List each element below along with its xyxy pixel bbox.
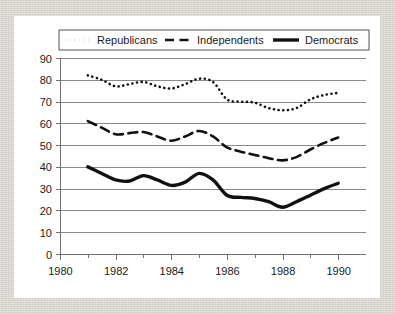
y-tick-label: 70	[40, 96, 52, 108]
y-tick-label: 0	[46, 249, 52, 261]
x-tick-label: 1982	[104, 265, 128, 277]
series-line-democrats	[88, 167, 338, 207]
y-tick-label: 10	[40, 227, 52, 239]
figure-root: 9080706050403020100 19801982198419861988…	[0, 0, 395, 314]
legend-label: Republicans	[97, 34, 158, 46]
legend-label: Democrats	[305, 34, 359, 46]
y-tick-label: 30	[40, 183, 52, 195]
y-tick-label: 50	[40, 140, 52, 152]
axis-lines-group	[60, 58, 366, 255]
x-tick-label: 1986	[215, 265, 239, 277]
y-axis-tick-labels: 9080706050403020100	[40, 53, 52, 261]
y-tick-label: 40	[40, 161, 52, 173]
x-tick-label: 1984	[160, 265, 184, 277]
legend-label: Independents	[197, 34, 264, 46]
chart-legend[interactable]: RepublicansIndependentsDemocrats	[59, 30, 369, 50]
y-tick-label: 20	[40, 205, 52, 217]
x-axis-tick-labels: 198019821984198619881990	[48, 265, 351, 277]
series-line-independents	[88, 121, 338, 160]
tick-marks-group	[56, 59, 339, 260]
line-chart: 9080706050403020100 19801982198419861988…	[14, 16, 380, 298]
chart-card: 9080706050403020100 19801982198419861988…	[14, 16, 380, 298]
y-tick-label: 60	[40, 118, 52, 130]
y-tick-label: 80	[40, 74, 52, 86]
data-series-group	[88, 75, 338, 207]
x-tick-label: 1990	[326, 265, 350, 277]
y-tick-label: 90	[40, 53, 52, 65]
x-tick-label: 1988	[271, 265, 295, 277]
x-tick-label: 1980	[48, 265, 72, 277]
